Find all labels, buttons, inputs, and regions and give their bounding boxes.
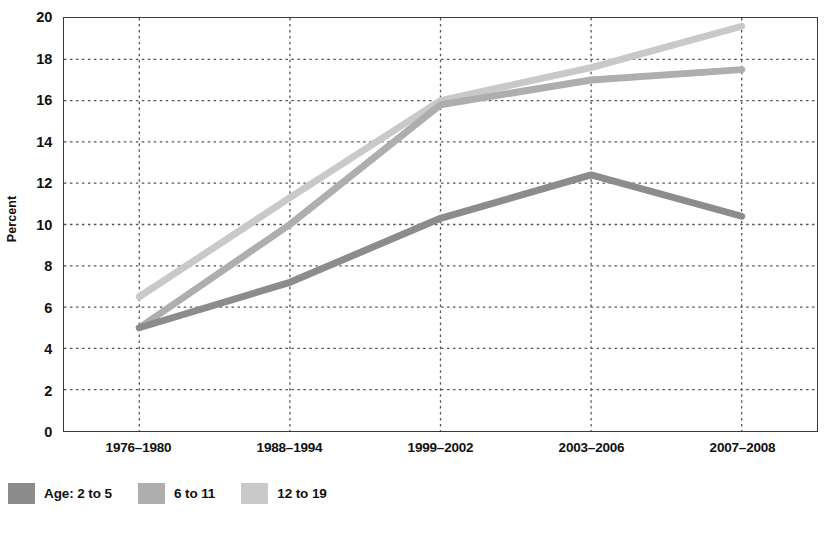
y-axis-tick-label: 0	[2, 424, 52, 440]
series-line-6-to-11	[139, 70, 741, 328]
y-axis-tick-labels: 20181614121086420	[0, 0, 58, 533]
y-axis-tick-label: 6	[2, 300, 52, 316]
legend-swatch	[138, 483, 165, 504]
y-axis-tick-label: 10	[2, 217, 52, 233]
x-axis-tick-label: 2003–2006	[559, 440, 625, 455]
legend-label: 12 to 19	[277, 486, 326, 501]
y-axis-tick-label: 16	[2, 92, 52, 108]
y-axis-tick-label: 12	[2, 175, 52, 191]
legend-item-12-to-19[interactable]: 12 to 19	[241, 483, 326, 504]
y-axis-tick-label: 18	[2, 51, 52, 67]
series-lines	[64, 18, 817, 431]
plot-area	[63, 17, 818, 432]
legend-item-6-to-11[interactable]: 6 to 11	[138, 483, 215, 504]
line-chart: Percent 20181614121086420 1976–19801988–…	[0, 0, 829, 533]
y-axis-tick-label: 4	[2, 341, 52, 357]
legend-swatch	[8, 483, 35, 504]
x-axis-tick-label: 1988–1994	[257, 440, 323, 455]
y-axis-tick-label: 20	[2, 9, 52, 25]
x-axis-tick-label: 2007–2008	[710, 440, 776, 455]
chart-legend: Age: 2 to 56 to 1112 to 19	[8, 480, 353, 506]
y-axis-tick-label: 14	[2, 134, 52, 150]
series-line-2-to-5	[139, 175, 741, 328]
legend-label: Age: 2 to 5	[44, 486, 112, 501]
y-axis-tick-label: 8	[2, 258, 52, 274]
legend-item-2-to-5[interactable]: Age: 2 to 5	[8, 483, 112, 504]
y-axis-tick-label: 2	[2, 383, 52, 399]
x-axis-tick-labels: 1976–19801988–19941999–20022003–20062007…	[63, 440, 818, 464]
series-line-12-to-19	[139, 26, 741, 297]
x-axis-tick-label: 1976–1980	[106, 440, 172, 455]
legend-label: 6 to 11	[174, 486, 215, 501]
x-axis-tick-label: 1999–2002	[408, 440, 474, 455]
legend-swatch	[241, 483, 268, 504]
